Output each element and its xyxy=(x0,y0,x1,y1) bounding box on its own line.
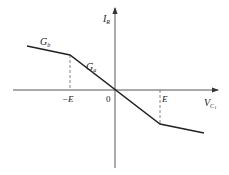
iv-characteristic-diagram: IR VC1 0 −E E Ga Gb xyxy=(0,0,229,175)
inner-slope-label: Ga xyxy=(86,61,96,73)
characteristic-curve xyxy=(27,46,204,133)
y-axis-label: IR xyxy=(102,13,110,25)
neg-breakpoint-label: −E xyxy=(62,94,74,104)
pos-breakpoint-label: E xyxy=(161,94,168,104)
outer-slope-label: Gb xyxy=(40,36,50,48)
x-axis-label: VC1 xyxy=(204,97,216,110)
origin-label: 0 xyxy=(106,94,111,104)
